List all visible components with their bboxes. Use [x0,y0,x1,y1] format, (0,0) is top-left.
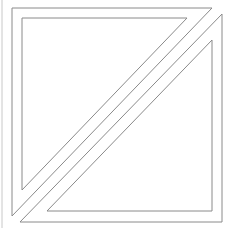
lower-right-inner-triangle [47,40,212,211]
diagram-svg [0,0,226,228]
diagram-canvas [0,0,226,228]
upper-left-inner-triangle [22,18,187,190]
lower-right-outer-triangle [20,14,222,222]
upper-left-outer-triangle [12,8,212,216]
